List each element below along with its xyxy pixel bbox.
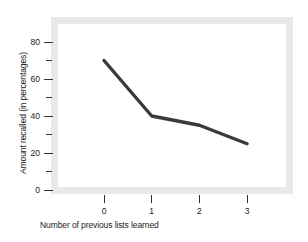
y-tick-mark <box>46 134 52 135</box>
x-tick-mark <box>199 195 200 203</box>
y-tick-mark <box>44 190 53 191</box>
x-axis-title: Number of previous lists learned <box>40 220 270 230</box>
y-tick-mark <box>44 116 53 117</box>
x-tick-mark <box>151 195 152 203</box>
y-tick-mark <box>44 153 53 154</box>
y-tick-mark <box>46 60 52 61</box>
y-axis-title: Amount recalled (in percentages) <box>18 28 28 198</box>
x-tick-label: 3 <box>239 207 255 216</box>
x-tick-mark <box>104 195 105 203</box>
x-tick-label: 1 <box>144 207 160 216</box>
y-tick-mark <box>44 42 53 43</box>
y-tick-mark <box>44 79 53 80</box>
y-tick-mark <box>46 97 52 98</box>
x-tick-mark <box>247 195 248 203</box>
x-tick-label: 0 <box>96 207 112 216</box>
x-tick-label: 2 <box>191 207 207 216</box>
plot-area <box>58 24 286 187</box>
y-tick-mark <box>46 171 52 172</box>
line-chart-figure: 806040200 0123 Amount recalled (in perce… <box>0 0 308 242</box>
